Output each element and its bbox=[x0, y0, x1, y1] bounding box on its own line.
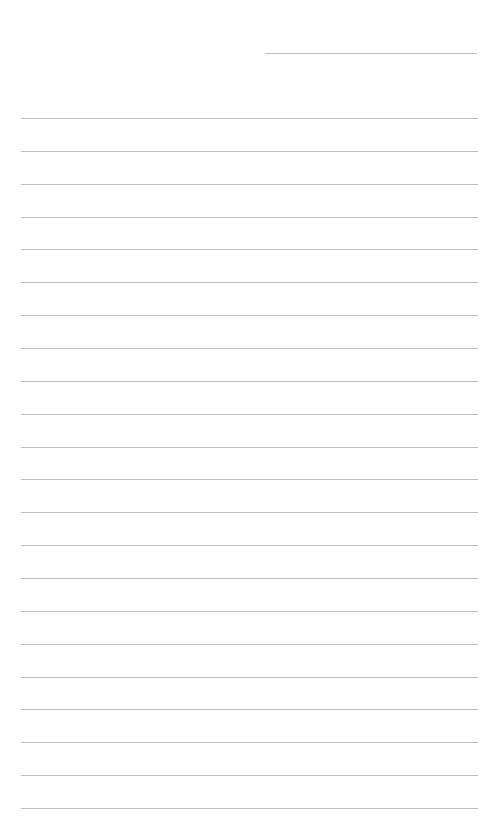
ruled-line bbox=[21, 677, 478, 678]
ruled-line bbox=[21, 775, 478, 776]
ruled-line bbox=[21, 808, 478, 809]
ruled-line bbox=[21, 381, 478, 382]
ruled-line bbox=[21, 282, 478, 283]
ruled-line bbox=[21, 545, 478, 546]
ruled-line bbox=[21, 709, 478, 710]
header-name-line bbox=[265, 53, 477, 54]
ruled-line bbox=[21, 217, 478, 218]
ruled-line bbox=[21, 742, 478, 743]
ruled-line bbox=[21, 414, 478, 415]
lined-paper-page bbox=[0, 0, 499, 835]
ruled-line bbox=[21, 512, 478, 513]
ruled-line bbox=[21, 348, 478, 349]
ruled-line bbox=[21, 184, 478, 185]
ruled-line bbox=[21, 151, 478, 152]
ruled-line bbox=[21, 315, 478, 316]
ruled-line bbox=[21, 447, 478, 448]
ruled-line bbox=[21, 479, 478, 480]
ruled-line bbox=[21, 644, 478, 645]
ruled-line bbox=[21, 118, 478, 119]
ruled-line bbox=[21, 611, 478, 612]
ruled-line bbox=[21, 578, 478, 579]
ruled-line bbox=[21, 249, 478, 250]
